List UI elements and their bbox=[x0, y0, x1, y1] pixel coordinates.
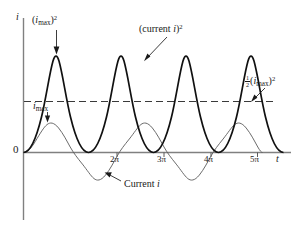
superscript-2: 2 bbox=[54, 14, 57, 21]
superscript-2: 2 bbox=[179, 23, 182, 30]
subscript-max: max bbox=[256, 80, 268, 88]
annotation-squared-curve: (current i)2 bbox=[139, 24, 183, 34]
subscript-max: max bbox=[36, 105, 48, 113]
x-tick-label-3pi: 3π bbox=[157, 154, 166, 164]
x-axis-label: t bbox=[276, 154, 279, 164]
squared-current-curve bbox=[24, 56, 284, 152]
leader-current-curve bbox=[105, 172, 121, 181]
annotation-current-curve: Current i bbox=[124, 179, 160, 189]
leader-half-max bbox=[251, 88, 265, 102]
symbol-i: i bbox=[157, 178, 160, 189]
x-tick-label-4pi: 4π bbox=[204, 154, 213, 164]
annotation-half-peak-squared: 12(imax)2 bbox=[245, 75, 275, 89]
fraction-denominator: 2 bbox=[245, 81, 250, 88]
leader-peak-squared bbox=[54, 30, 60, 55]
annotation-peak-current: imax bbox=[33, 101, 48, 113]
plot-canvas bbox=[0, 0, 300, 233]
x-tick-label-2pi: 2π bbox=[110, 154, 119, 164]
leader-squared-curve bbox=[144, 37, 167, 61]
current-word: Current bbox=[124, 178, 157, 189]
paren-open-current: (current bbox=[139, 23, 173, 34]
figure-ac-current-squared: i t 0 2π 3π 4π 5π (imax)2 (current i)2 1… bbox=[0, 0, 300, 233]
current-sine-curve bbox=[24, 123, 263, 180]
leader-peak-current bbox=[45, 112, 50, 123]
origin-label: 0 bbox=[13, 144, 19, 155]
annotation-peak-squared: (imax)2 bbox=[32, 15, 57, 27]
x-tick-label-5pi: 5π bbox=[250, 154, 259, 164]
y-axis-label: i bbox=[16, 12, 19, 22]
superscript-2: 2 bbox=[272, 75, 275, 82]
fraction-one-half: 12 bbox=[245, 75, 250, 89]
subscript-max: max bbox=[38, 19, 50, 27]
